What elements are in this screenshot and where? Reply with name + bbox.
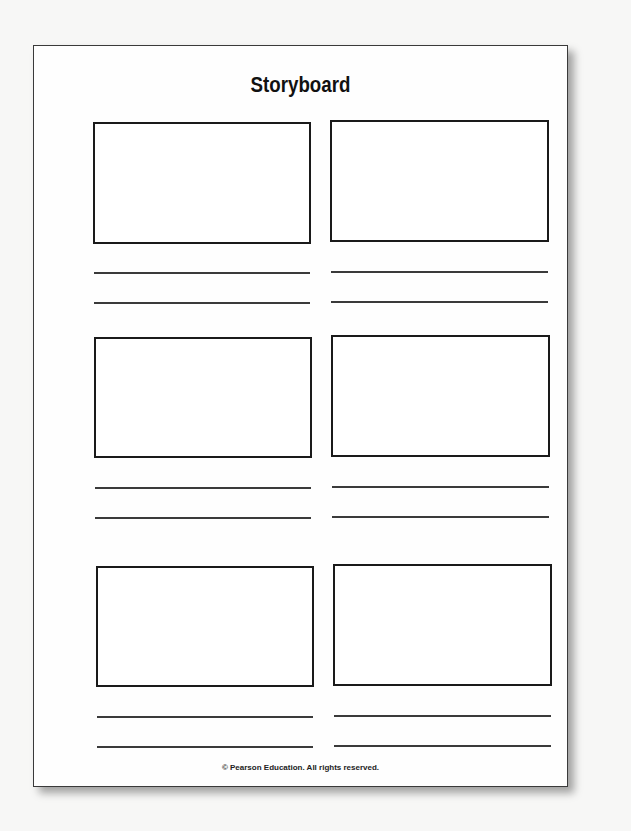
- caption-line[interactable]: [331, 271, 548, 273]
- copyright-footer: © Pearson Education. All rights reserved…: [34, 763, 567, 772]
- caption-line[interactable]: [332, 516, 549, 518]
- storyboard-panel-1[interactable]: [93, 122, 311, 244]
- storyboard-panel-2[interactable]: [330, 120, 549, 242]
- storyboard-panel-6[interactable]: [333, 564, 552, 686]
- caption-line[interactable]: [331, 301, 548, 303]
- storyboard-panel-5[interactable]: [96, 566, 314, 687]
- caption-line[interactable]: [97, 716, 313, 718]
- page-title: Storyboard: [74, 72, 527, 98]
- storyboard-page: Storyboard © Pearson Education. All righ…: [33, 45, 568, 787]
- background-show-through: [60, 0, 620, 40]
- caption-line[interactable]: [95, 517, 311, 519]
- caption-line[interactable]: [334, 715, 551, 717]
- caption-line[interactable]: [95, 487, 311, 489]
- storyboard-panel-4[interactable]: [331, 335, 550, 457]
- caption-line[interactable]: [334, 745, 551, 747]
- caption-line[interactable]: [94, 302, 310, 304]
- caption-line[interactable]: [94, 272, 310, 274]
- caption-line[interactable]: [97, 746, 313, 748]
- caption-line[interactable]: [332, 486, 549, 488]
- storyboard-panel-3[interactable]: [94, 337, 312, 458]
